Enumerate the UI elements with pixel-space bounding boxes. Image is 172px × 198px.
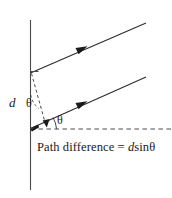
figure-caption: Path difference = dsinθ (37, 141, 155, 154)
caption-variable-theta: θ (149, 140, 155, 154)
path-difference-figure: d θ θ Path difference = dsinθ (0, 0, 172, 198)
path-difference-arrowhead (43, 119, 50, 128)
caption-prefix-text: Path difference = (37, 140, 128, 154)
angle-label-at-axis: θ (57, 114, 63, 126)
upper-light-ray (31, 23, 147, 73)
path-difference-dashed-segment (32, 74, 46, 125)
angle-arc-at-axis (53, 118, 57, 129)
angle-label-at-slit: θ (26, 97, 32, 109)
slit-separation-label: d (9, 96, 16, 109)
caption-sin-function: sin (134, 140, 149, 154)
